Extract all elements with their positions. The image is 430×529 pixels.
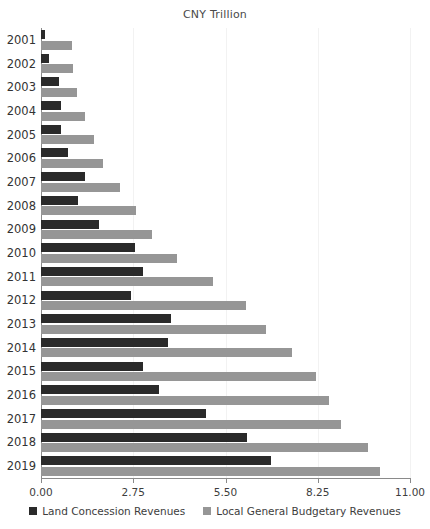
bar-row [41,99,410,123]
legend-label: Land Concession Revenues [42,505,185,517]
legend-swatch-icon [203,507,211,515]
bar-row [41,431,410,455]
bar-land-concession-revenues [41,362,143,371]
chart-legend: Land Concession Revenues Local General B… [0,505,430,517]
bar-land-concession-revenues [41,267,143,276]
bar-land-concession-revenues [41,220,99,229]
bar-local-general-budgetary-revenues [41,254,177,263]
bar-land-concession-revenues [41,338,168,347]
bar-local-general-budgetary-revenues [41,183,120,192]
x-axis-tick-label: 5.50 [214,486,237,498]
bar-land-concession-revenues [41,101,61,110]
bar-row [41,360,410,384]
bar-local-general-budgetary-revenues [41,277,213,286]
bar-land-concession-revenues [41,385,159,394]
bar-row [41,52,410,76]
x-axis-tick [226,478,227,483]
chart-title: CNY Trillion [0,8,430,21]
bar-land-concession-revenues [41,196,78,205]
y-axis-label-2016: 2016 [7,388,36,402]
legend-item-local-general-budgetary-revenues: Local General Budgetary Revenues [203,505,401,517]
bar-land-concession-revenues [41,433,247,442]
x-axis-tick [410,478,411,483]
y-axis-label-2009: 2009 [7,222,36,236]
bar-row [41,407,410,431]
x-axis-tick [318,478,319,483]
bar-land-concession-revenues [41,243,135,252]
x-axis-tick-label: 0.00 [29,486,52,498]
bar-local-general-budgetary-revenues [41,301,246,310]
y-axis-label-2001: 2001 [7,33,36,47]
bar-local-general-budgetary-revenues [41,325,266,334]
bar-local-general-budgetary-revenues [41,230,152,239]
bar-local-general-budgetary-revenues [41,64,73,73]
legend-item-land-concession-revenues: Land Concession Revenues [29,505,185,517]
y-axis-label-2006: 2006 [7,151,36,165]
y-axis-label-2010: 2010 [7,246,36,260]
bar-row [41,454,410,478]
bar-local-general-budgetary-revenues [41,159,103,168]
legend-swatch-icon [29,507,37,515]
y-axis-label-2018: 2018 [7,435,36,449]
bar-local-general-budgetary-revenues [41,206,136,215]
y-axis-label-2005: 2005 [7,128,36,142]
bar-local-general-budgetary-revenues [41,467,380,476]
bar-land-concession-revenues [41,172,85,181]
bar-row [41,123,410,147]
y-axis-label-2008: 2008 [7,199,36,213]
y-axis-label-2011: 2011 [7,270,36,284]
bar-row [41,265,410,289]
x-axis-tick [133,478,134,483]
x-axis-tick [41,478,42,483]
bar-local-general-budgetary-revenues [41,88,77,97]
y-axis-label-2012: 2012 [7,293,36,307]
bar-row [41,146,410,170]
bar-rows [41,28,410,478]
bar-local-general-budgetary-revenues [41,372,316,381]
bar-row [41,336,410,360]
bar-row [41,241,410,265]
x-axis-tick-label: 11.00 [395,486,425,498]
bar-row [41,28,410,52]
bar-land-concession-revenues [41,77,59,86]
bar-land-concession-revenues [41,30,45,39]
bar-row [41,194,410,218]
gridline [410,28,411,478]
x-axis-tick-label: 8.25 [306,486,329,498]
y-axis-category-labels: 2001200220032004200520062007200820092010… [0,28,36,478]
bar-local-general-budgetary-revenues [41,443,368,452]
bar-row [41,170,410,194]
y-axis-label-2015: 2015 [7,364,36,378]
y-axis-label-2019: 2019 [7,459,36,473]
bar-local-general-budgetary-revenues [41,420,341,429]
bar-row [41,312,410,336]
bar-land-concession-revenues [41,314,171,323]
bar-row [41,217,410,241]
bar-row [41,383,410,407]
bar-row [41,75,410,99]
y-axis-label-2007: 2007 [7,175,36,189]
y-axis-label-2017: 2017 [7,412,36,426]
y-axis-label-2002: 2002 [7,57,36,71]
x-axis-tick-label: 2.75 [122,486,145,498]
y-axis-label-2013: 2013 [7,317,36,331]
bar-row [41,289,410,313]
bar-local-general-budgetary-revenues [41,135,94,144]
y-axis-label-2004: 2004 [7,104,36,118]
bar-local-general-budgetary-revenues [41,112,85,121]
plot-area [41,28,410,478]
y-axis-label-2003: 2003 [7,80,36,94]
y-axis-label-2014: 2014 [7,341,36,355]
bar-land-concession-revenues [41,125,61,134]
bar-chart: CNY Trillion 200120022003200420052006200… [0,0,430,529]
bar-land-concession-revenues [41,148,68,157]
bar-land-concession-revenues [41,291,131,300]
bar-land-concession-revenues [41,456,271,465]
bar-land-concession-revenues [41,409,206,418]
bar-local-general-budgetary-revenues [41,348,292,357]
bar-local-general-budgetary-revenues [41,396,329,405]
bar-local-general-budgetary-revenues [41,41,72,50]
legend-label: Local General Budgetary Revenues [216,505,401,517]
bar-land-concession-revenues [41,54,49,63]
